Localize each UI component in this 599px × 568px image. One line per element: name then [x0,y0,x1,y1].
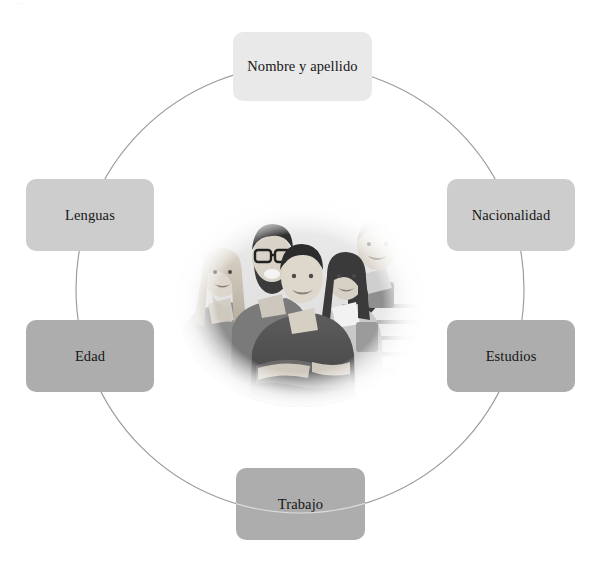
center-photo [172,196,428,410]
node-trabajo[interactable]: Trabajo [236,468,365,540]
node-label: Nombre y apellido [247,58,357,75]
node-label: Nacionalidad [472,207,551,224]
node-nombre-y-apellido[interactable]: Nombre y apellido [233,32,372,101]
node-edad[interactable]: Edad [26,320,154,392]
node-lenguas[interactable]: Lenguas [26,179,154,251]
node-label: Estudios [486,348,537,365]
diagram-canvas: ···· [0,0,599,568]
node-label: Edad [75,348,105,365]
node-nacionalidad[interactable]: Nacionalidad [447,179,575,251]
group-of-young-people-photo [172,196,428,410]
node-label: Lenguas [65,207,115,224]
node-label: Trabajo [278,496,323,513]
node-estudios[interactable]: Estudios [447,320,575,392]
